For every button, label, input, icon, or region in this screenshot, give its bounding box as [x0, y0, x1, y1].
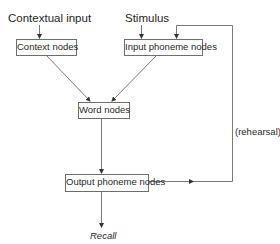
- output-phoneme-nodes-box: Output phoneme nodes: [65, 174, 149, 192]
- context-nodes-box: Context nodes: [16, 39, 77, 56]
- rehearsal-model-diagram: Contextual input Stimulus Context nodes …: [0, 0, 280, 244]
- contextual-input-label: Contextual input: [8, 12, 91, 24]
- connector-lines: [0, 0, 280, 244]
- input-phoneme-nodes-box: Input phoneme nodes: [124, 39, 203, 56]
- word-nodes-box: Word nodes: [78, 102, 130, 119]
- stimulus-label: Stimulus: [125, 12, 169, 24]
- recall-label: Recall: [90, 230, 116, 241]
- edge-input-to-word: [112, 55, 157, 101]
- edge-context-to-word: [46, 55, 90, 101]
- rehearsal-label: (rehearsal): [235, 126, 280, 137]
